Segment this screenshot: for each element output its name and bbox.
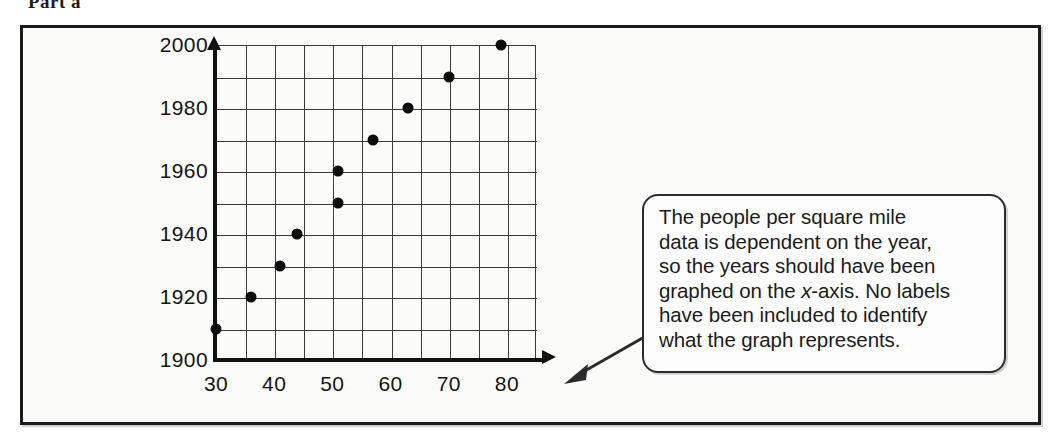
callout-line-2: data is dependent on the year,	[659, 230, 932, 253]
y-tick-label: 1900	[160, 348, 208, 372]
y-tick-label: 1940	[160, 222, 208, 246]
callout-box: The people per square mile data is depen…	[642, 194, 1006, 373]
data-point	[275, 260, 286, 271]
data-point	[403, 103, 414, 114]
page-canvas: Part a 190019201940196019802000 30405060…	[0, 0, 1061, 445]
grid-hline	[217, 235, 537, 236]
callout-line-1: The people per square mile	[659, 205, 906, 228]
callout-line-3: so the years should have been	[659, 254, 935, 277]
data-point	[292, 229, 303, 240]
data-point	[333, 197, 344, 208]
callout-line-4-italic-x: x	[801, 279, 811, 302]
callout-line-4-post: -axis. No labels	[811, 279, 950, 302]
data-point	[211, 323, 222, 334]
grid-hline	[217, 172, 537, 173]
grid-hline	[217, 109, 537, 110]
y-tick-label: 1960	[160, 159, 208, 183]
y-tick-label: 2000	[160, 33, 208, 57]
x-axis-arrow-icon	[542, 350, 556, 364]
grid-hline	[217, 330, 537, 331]
y-axis-line	[213, 48, 217, 360]
data-point	[443, 71, 454, 82]
y-axis-arrow-icon	[207, 36, 221, 50]
grid-hline	[217, 298, 537, 299]
x-tick-label: 40	[262, 372, 286, 396]
y-axis-tick-labels: 190019201940196019802000	[60, 45, 208, 360]
x-tick-label: 80	[495, 372, 519, 396]
x-axis-tick-labels: 304050607080	[216, 372, 556, 402]
data-point	[496, 40, 507, 51]
data-point	[245, 292, 256, 303]
plot-gridlines	[216, 45, 536, 360]
callout-line-4-pre: graphed on the	[659, 279, 801, 302]
y-tick-label: 1980	[160, 96, 208, 120]
x-tick-label: 30	[204, 372, 228, 396]
y-tick-label: 1920	[160, 285, 208, 309]
x-axis-line	[213, 358, 544, 362]
x-tick-label: 50	[320, 372, 344, 396]
x-tick-label: 60	[378, 372, 402, 396]
grid-hline	[217, 204, 537, 205]
grid-hline	[217, 78, 537, 79]
x-tick-label: 70	[437, 372, 461, 396]
data-point	[368, 134, 379, 145]
cropped-header-text: Part a	[28, 0, 81, 13]
callout-line-6: what the graph represents.	[659, 328, 900, 351]
grid-hline	[217, 267, 537, 268]
callout-text: The people per square mile data is depen…	[659, 205, 991, 353]
scatter-plot	[216, 45, 536, 360]
data-point	[333, 166, 344, 177]
callout-line-5: have been included to identify	[659, 303, 927, 326]
